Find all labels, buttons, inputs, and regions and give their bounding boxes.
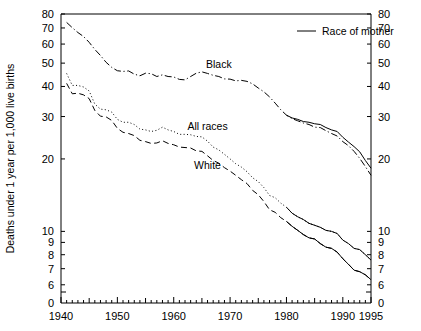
x-tick-label: 1990 [331,310,355,322]
legend-label-race-of-mother: Race of mother [322,25,394,37]
y-tick-label-left: 60 [42,38,54,50]
y-tick-label-left: 8 [48,249,54,261]
y-tick-label-right: 9 [378,236,384,248]
y-tick-label-right: 60 [378,38,390,50]
y-tick-label-right: 40 [378,80,390,92]
chart-canvas: 8080707060605050404030302020101099887766… [0,0,421,331]
infant-mortality-chart: 8080707060605050404030302020101099887766… [0,0,421,331]
y-tick-label-left: 6 [48,279,54,291]
y-zero-label-right: 0 [378,297,384,309]
series-annotation-black: Black [206,58,232,70]
x-tick-label: 1970 [218,310,242,322]
series-line-all-races-race-of-mother- [286,207,371,260]
x-tick-label: 1980 [274,310,298,322]
series-line-white [67,83,371,279]
series-line-black-race-of-mother- [286,115,371,168]
y-tick-label-left: 50 [42,57,54,69]
y-tick-label-left: 7 [48,263,54,275]
y-tick-label-right: 7 [378,263,384,275]
x-tick-label: 1960 [161,310,185,322]
y-tick-label-left: 9 [48,236,54,248]
series-annotation-all-races: All races [187,120,227,132]
y-tick-label-left: 70 [42,22,54,34]
y-tick-label-right: 30 [378,111,390,123]
y-tick-label-right: 6 [378,279,384,291]
series-annotation-white: White [194,159,221,171]
series-line-black [67,22,371,175]
x-tick-label: 1940 [49,310,73,322]
y-tick-label-left: 30 [42,111,54,123]
y-tick-label-right: 80 [378,8,390,20]
y-tick-label-left: 40 [42,80,54,92]
y-tick-label-right: 50 [378,57,390,69]
series-line-white-race-of-mother- [286,221,371,279]
y-zero-label-left: 0 [48,297,54,309]
y-tick-label-left: 20 [42,153,54,165]
x-tick-label: 1950 [105,310,129,322]
y-tick-label-left: 80 [42,8,54,20]
y-tick-label-right: 20 [378,153,390,165]
y-axis-title: Deaths under 1 year per 1,000 live birth… [4,64,16,254]
y-tick-label-right: 8 [378,249,384,261]
x-tick-label: 1995 [359,310,383,322]
